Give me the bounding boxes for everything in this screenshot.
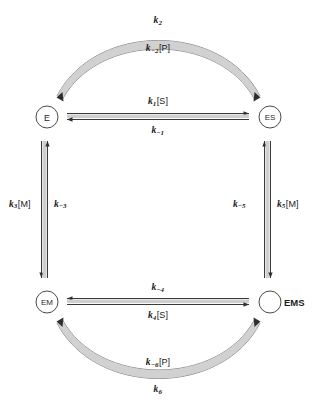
rate-label-k3-M: k3[M] — [9, 200, 31, 211]
rate-label-k-minus-3: k−3 — [54, 200, 67, 211]
top-arc-inner-line — [62, 49, 255, 100]
left-vertical-ribbon-fill — [43, 141, 47, 278]
rate-label-k6: k6 — [154, 385, 163, 396]
node-E: E — [36, 106, 58, 128]
rate-label-k-minus-1: k−1 — [151, 126, 164, 137]
node-ES: ES — [259, 106, 281, 128]
edge-top-horizontal — [67, 114, 249, 120]
rate-label-k-minus-6-P: k−6[P] — [146, 358, 170, 369]
edge-bottom-horizontal — [67, 299, 249, 305]
rate-label-k4-S: k4[S] — [148, 311, 168, 322]
edge-bottom-arc — [57, 318, 261, 379]
node-EMS-circle — [259, 291, 281, 313]
rate-label-k1-S: k1[S] — [148, 97, 168, 108]
edge-right-vertical — [265, 141, 271, 278]
scheme-canvas: E ES EM EMS — [0, 0, 317, 416]
node-ES-label: ES — [265, 113, 276, 122]
top-horizontal-ribbon-fill — [67, 115, 249, 119]
node-EM: EM — [36, 291, 58, 313]
node-EMS-label: EMS — [284, 297, 305, 308]
node-E-label: E — [44, 113, 50, 123]
bottom-horizontal-ribbon-fill — [67, 300, 249, 304]
node-EMS: EMS — [259, 291, 305, 313]
node-EM-label: EM — [41, 298, 53, 307]
rate-label-k-minus-2-P: k−2[P] — [146, 44, 170, 55]
rate-label-k5-M: k5[M] — [277, 200, 299, 211]
rate-label-k2: k2 — [154, 16, 163, 27]
rate-label-k-minus-5: k−5 — [233, 200, 246, 211]
edge-left-vertical — [42, 141, 48, 278]
reaction-scheme-diagram: E ES EM EMS k2 k−2[P] k1[S] k−1 k3[M] — [0, 0, 317, 416]
right-vertical-ribbon-fill — [266, 141, 270, 278]
rate-label-k-minus-4: k−4 — [151, 283, 164, 294]
